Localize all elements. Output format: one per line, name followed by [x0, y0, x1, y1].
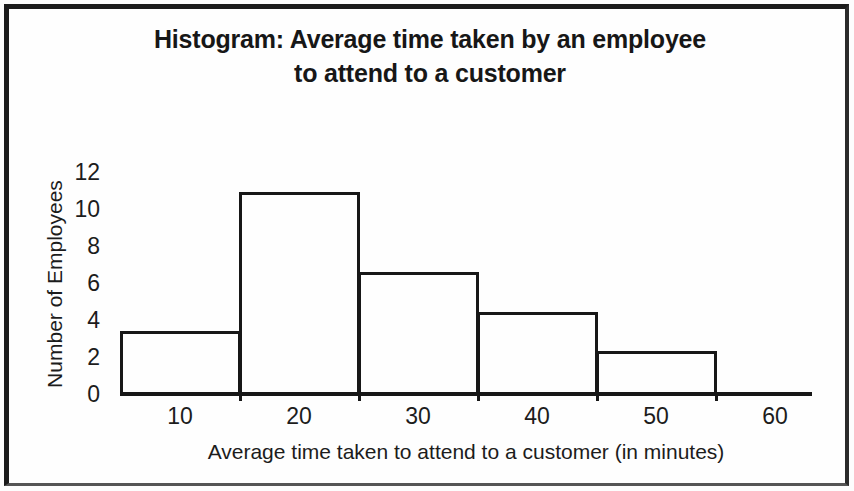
x-tick-label-20: 20	[259, 405, 339, 428]
x-tick-label-50: 50	[616, 405, 696, 428]
x-axis-line	[120, 392, 812, 396]
bar-bin-45-55	[596, 351, 717, 392]
x-tick-25	[358, 392, 361, 401]
x-tick-55	[715, 392, 718, 401]
x-axis-title: Average time taken to attend to a custom…	[120, 440, 812, 464]
x-tick-45	[596, 392, 599, 401]
x-tick-35	[477, 392, 480, 401]
x-tick-15	[239, 392, 242, 401]
x-tick-label-30: 30	[378, 405, 458, 428]
histogram-figure: Histogram: Average time taken by an empl…	[0, 0, 854, 491]
x-tick-label-40: 40	[497, 405, 577, 428]
x-tick-label-60: 60	[735, 405, 815, 428]
bar-bin-15-25	[239, 192, 360, 392]
bar-bin-25-35	[358, 272, 479, 392]
bar-bin-35-45	[477, 312, 598, 392]
bar-bin-5-15	[120, 331, 241, 392]
y-axis-title: Number of Employees	[43, 154, 67, 414]
plot-area: 12 10 8 6 4 2 0 Number of Employees 10 2…	[0, 0, 854, 491]
x-tick-label-10: 10	[140, 405, 220, 428]
